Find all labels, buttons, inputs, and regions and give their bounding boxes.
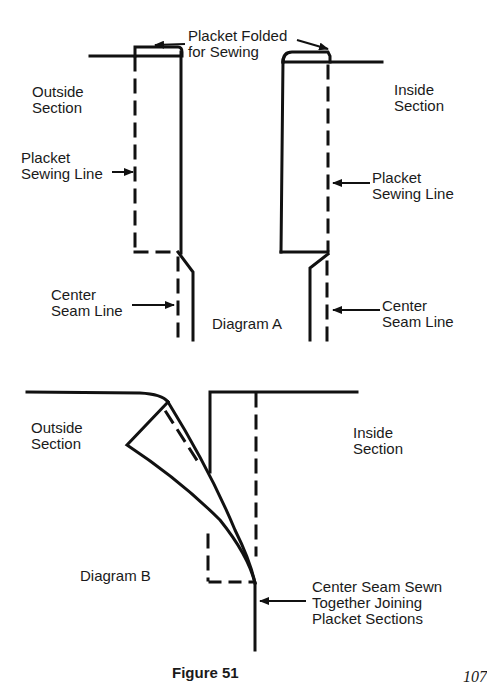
label-outside-section-a: Outside Section — [32, 84, 84, 116]
label-placket-sewing-line-right: Placket Sewing Line — [372, 170, 454, 202]
figure-caption: Figure 51 — [172, 664, 239, 681]
label-placket-folded: Placket Folded for Sewing — [188, 28, 287, 60]
label-center-seam-line-right: Center Seam Line — [382, 298, 454, 330]
label-inside-section-a: Inside Section — [394, 82, 444, 114]
label-outside-section-b: Outside Section — [31, 420, 83, 452]
diagram-a-title: Diagram A — [212, 316, 282, 332]
label-placket-sewing-line-left: Placket Sewing Line — [21, 150, 103, 182]
label-center-seam-line-left: Center Seam Line — [51, 287, 123, 319]
label-center-seam-sewn: Center Seam Sewn Together Joining Placke… — [312, 579, 442, 627]
diagram-b-title: Diagram B — [80, 568, 151, 584]
label-inside-section-b: Inside Section — [353, 425, 403, 457]
page-number: 107 — [463, 668, 487, 682]
diagram-a-right-piece — [281, 52, 382, 340]
